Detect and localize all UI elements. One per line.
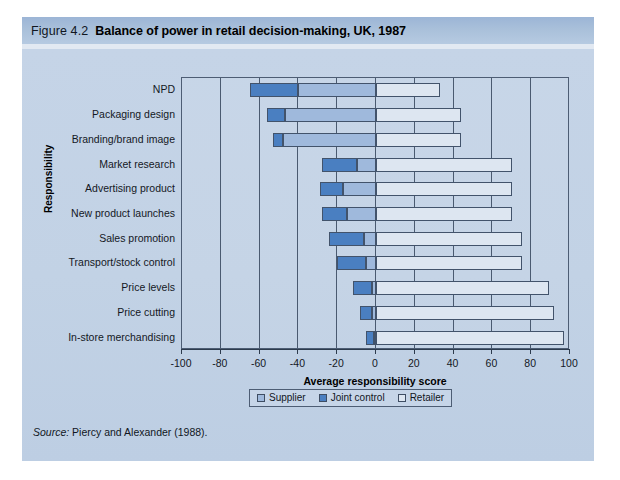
bar-segment-supplier (357, 158, 376, 172)
x-tick-label: 20 (408, 357, 420, 369)
legend-label: Supplier (269, 392, 306, 403)
x-tick (530, 349, 531, 354)
y-tick-label: Market research (99, 158, 175, 170)
legend-item: Supplier (257, 392, 306, 403)
bar-segment-retailer (376, 133, 461, 147)
y-tick-label: In-store merchandising (68, 331, 175, 343)
gridline (259, 78, 260, 348)
x-tick (453, 349, 454, 354)
x-tick (491, 349, 492, 354)
y-axis-tick-labels: NPDPackaging designBranding/brand imageM… (22, 77, 175, 349)
source-prefix: Source: (33, 426, 69, 438)
y-tick-label: Advertising product (85, 182, 175, 194)
bar-segment-retailer (376, 83, 440, 97)
figure-title: Balance of power in retail decision-maki… (95, 24, 406, 38)
bar-segment-retailer (376, 207, 512, 221)
legend-swatch-icon (398, 394, 406, 402)
bar-segment-retailer (376, 281, 549, 295)
y-tick-label: Price cutting (117, 306, 175, 318)
y-tick-label: Transport/stock control (69, 256, 175, 268)
bar-segment-supplier (285, 108, 376, 122)
bar-segment-retailer (376, 158, 512, 172)
bar-segment-retailer (376, 306, 554, 320)
x-tick (569, 349, 570, 354)
y-tick-label: Sales promotion (99, 232, 175, 244)
figure-number: Figure 4.2 (31, 24, 88, 38)
bar-segment-supplier (366, 256, 376, 270)
figure-source: Source: Piercy and Alexander (1988). (33, 426, 208, 438)
chart-legend: SupplierJoint controlRetailer (249, 389, 452, 407)
y-tick-label: Branding/brand image (72, 133, 175, 145)
gridline (220, 78, 221, 348)
x-tick (297, 349, 298, 354)
x-tick-label: -60 (251, 357, 266, 369)
bar-segment-retailer (376, 108, 461, 122)
x-tick (414, 349, 415, 354)
bar-segment-supplier (347, 207, 376, 221)
bar-segment-joint-control (329, 232, 364, 246)
x-tick-label: 0 (372, 357, 378, 369)
bar-segment-retailer (376, 331, 564, 345)
bar-segment-joint-control (322, 207, 347, 221)
bar-segment-retailer (376, 256, 522, 270)
plot-area (181, 77, 569, 349)
bar-segment-supplier (343, 182, 376, 196)
bar-segment-joint-control (320, 182, 343, 196)
x-tick (220, 349, 221, 354)
x-tick-label: -20 (329, 357, 344, 369)
x-tick-label: -80 (212, 357, 227, 369)
bar-segment-joint-control (273, 133, 283, 147)
x-tick-label: 80 (524, 357, 536, 369)
x-tick (336, 349, 337, 354)
legend-item: Joint control (319, 392, 385, 403)
y-tick-label: NPD (153, 83, 175, 95)
chart-panel: Responsibility NPDPackaging designBrandi… (22, 49, 594, 461)
figure-title-bar: Figure 4.2 Balance of power in retail de… (22, 17, 594, 44)
bar-segment-joint-control (366, 331, 374, 345)
bar-segment-retailer (376, 182, 512, 196)
bar-segment-supplier (364, 232, 376, 246)
legend-swatch-icon (319, 394, 327, 402)
y-tick-label: New product launches (71, 207, 175, 219)
bar-segment-joint-control (322, 158, 357, 172)
bar-segment-joint-control (267, 108, 284, 122)
x-tick (375, 349, 376, 354)
legend-label: Joint control (331, 392, 385, 403)
x-tick-label: 60 (486, 357, 498, 369)
figure-container: Figure 4.2 Balance of power in retail de… (0, 0, 620, 480)
bar-segment-joint-control (360, 306, 372, 320)
x-tick-label: -40 (290, 357, 305, 369)
x-tick (259, 349, 260, 354)
bar-segment-supplier (298, 83, 376, 97)
x-tick (181, 349, 182, 354)
bar-segment-retailer (376, 232, 522, 246)
bar-segment-supplier (283, 133, 376, 147)
x-tick-label: 40 (447, 357, 459, 369)
legend-swatch-icon (257, 394, 265, 402)
source-text: Piercy and Alexander (1988). (69, 426, 207, 438)
x-tick-label: -100 (170, 357, 191, 369)
y-tick-label: Packaging design (92, 108, 175, 120)
legend-item: Retailer (398, 392, 444, 403)
bar-segment-joint-control (250, 83, 299, 97)
bar-segment-joint-control (337, 256, 366, 270)
legend-label: Retailer (410, 392, 444, 403)
bar-segment-joint-control (353, 281, 372, 295)
x-axis-title: Average responsibility score (181, 375, 569, 387)
y-tick-label: Price levels (121, 281, 175, 293)
x-tick-label: 100 (560, 357, 578, 369)
